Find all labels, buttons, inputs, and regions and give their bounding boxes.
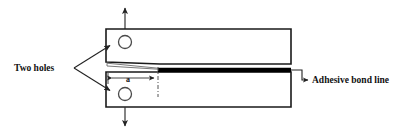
upper-hole	[119, 36, 132, 49]
two-holes-label: Two holes	[14, 63, 55, 73]
lower-adherend	[106, 72, 291, 107]
upper-adherend	[106, 29, 291, 64]
leader-to-upper-hole	[74, 46, 110, 69]
dcb-specimen-diagram: a Two holes Adhesive bond line	[0, 0, 410, 134]
lower-beam-outline	[106, 72, 291, 107]
leader-to-lower-hole	[74, 68, 110, 91]
leader-to-bond-line	[291, 70, 308, 80]
two-holes-annotation: Two holes	[14, 46, 110, 91]
lower-hole	[119, 88, 132, 101]
adhesive-bond-line-annotation: Adhesive bond line	[291, 70, 389, 85]
crack-length-label: a	[126, 75, 130, 84]
upper-beam-outline	[106, 29, 291, 64]
adhesive-bond-line-label: Adhesive bond line	[312, 75, 389, 85]
diagram-canvas: a Two holes Adhesive bond line	[0, 0, 410, 134]
